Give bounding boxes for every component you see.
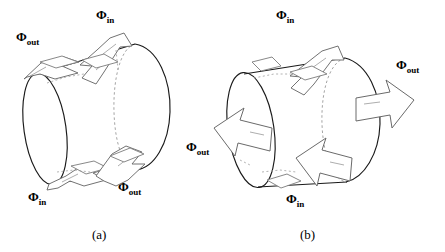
panel-b-dashed-guide-top bbox=[254, 74, 292, 78]
phi-symbol: Φ bbox=[96, 7, 107, 22]
phi-subscript: in bbox=[287, 15, 295, 25]
panel-b-dashed-guide-leftcap bbox=[240, 160, 252, 166]
panel-a-label-flux-out-upper-left: Φout bbox=[16, 30, 39, 47]
panel-b-flux-out-arrow-right bbox=[356, 80, 414, 128]
phi-symbol: Φ bbox=[16, 29, 27, 44]
cylinder-a-left-cap bbox=[16, 71, 73, 188]
phi-symbol: Φ bbox=[396, 57, 407, 72]
panel-b-flux-out-arrow-left bbox=[214, 108, 272, 156]
phi-subscript: in bbox=[39, 197, 47, 207]
panel-caption-a: (a) bbox=[92, 228, 106, 241]
panel-a-label-flux-out-bottom: Φout bbox=[118, 180, 141, 197]
phi-symbol: Φ bbox=[286, 191, 297, 206]
phi-symbol: Φ bbox=[118, 179, 129, 194]
phi-symbol: Φ bbox=[186, 139, 197, 154]
panel-b-dashed-guide-bottom bbox=[262, 170, 296, 172]
panel-b-label-flux-out-right: Φout bbox=[396, 58, 419, 75]
panel-a-label-flux-in-bottom-left: Φin bbox=[28, 190, 46, 207]
phi-symbol: Φ bbox=[28, 189, 39, 204]
phi-symbol: Φ bbox=[276, 7, 287, 22]
phi-subscript: out bbox=[407, 65, 420, 75]
phi-subscript: in bbox=[107, 15, 115, 25]
panel-b-flux-in-arrow-bottom bbox=[296, 138, 352, 186]
panel-b-label-flux-in-top: Φin bbox=[276, 8, 294, 25]
panel-caption-b: (b) bbox=[300, 228, 315, 241]
panel-b-label-flux-out-left: Φout bbox=[186, 140, 209, 157]
flux-cylinders-figure bbox=[0, 0, 445, 252]
phi-subscript: out bbox=[27, 37, 40, 47]
panel-a-label-flux-in-top: Φin bbox=[96, 8, 114, 25]
panel-b-label-flux-in-bottom: Φin bbox=[286, 192, 304, 209]
phi-subscript: out bbox=[129, 187, 142, 197]
phi-subscript: out bbox=[197, 147, 210, 157]
phi-subscript: in bbox=[297, 199, 305, 209]
